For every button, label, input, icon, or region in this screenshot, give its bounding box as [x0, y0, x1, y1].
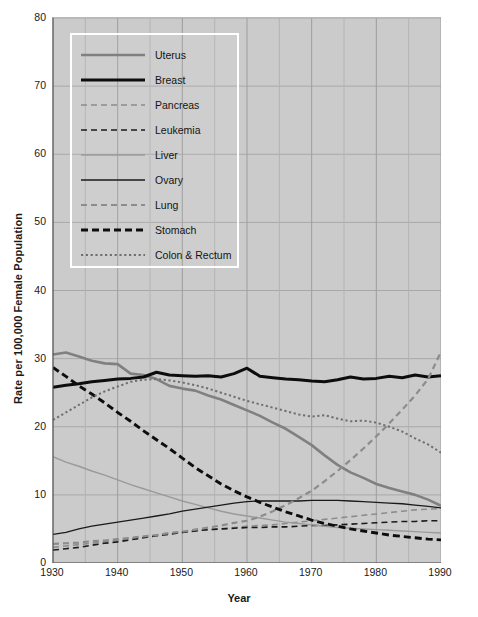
legend-item[interactable]: Liver	[72, 142, 237, 167]
legend-line-sample	[81, 174, 145, 186]
x-tick-label: 1960	[234, 566, 257, 578]
legend-item[interactable]: Leukemia	[72, 117, 237, 142]
x-axis-tick-labels: 1930194019501960197019801990	[0, 566, 478, 586]
y-tick-label: 50	[14, 215, 46, 227]
legend-item[interactable]: Stomach	[72, 217, 237, 242]
y-tick-label: 80	[14, 11, 46, 23]
legend-item-label: Colon & Rectum	[155, 249, 231, 261]
x-tick-label: 1990	[428, 566, 451, 578]
x-tick-label: 1950	[170, 566, 193, 578]
legend-line-sample	[81, 224, 145, 236]
legend-item[interactable]: Ovary	[72, 167, 237, 192]
legend-item[interactable]: Colon & Rectum	[72, 242, 237, 267]
x-axis-label: Year	[0, 592, 478, 604]
legend-item-label: Leukemia	[155, 124, 201, 136]
legend-item-label: Stomach	[155, 224, 196, 236]
x-tick-label: 1940	[105, 566, 128, 578]
x-tick-label: 1930	[40, 566, 63, 578]
legend-item-label: Liver	[155, 149, 178, 161]
legend-item-label: Pancreas	[155, 99, 199, 111]
y-tick-label: 20	[14, 420, 46, 432]
legend-line-sample	[81, 74, 145, 86]
legend-item-label: Breast	[155, 74, 185, 86]
y-tick-label: 30	[14, 352, 46, 364]
legend-item[interactable]: Pancreas	[72, 92, 237, 117]
y-tick-label: 60	[14, 147, 46, 159]
legend-item[interactable]: Uterus	[72, 42, 237, 67]
legend-item[interactable]: Lung	[72, 192, 237, 217]
x-tick-label: 1970	[299, 566, 322, 578]
x-tick-label: 1980	[364, 566, 387, 578]
y-tick-label: 40	[14, 284, 46, 296]
y-axis-tick-labels: 01020304050607080	[14, 0, 46, 617]
y-tick-label: 10	[14, 488, 46, 500]
legend-item-label: Ovary	[155, 174, 183, 186]
chart-root: Rate per 100,000 Female Population 01020…	[0, 0, 478, 617]
legend-line-sample	[81, 49, 145, 61]
legend-line-sample	[81, 99, 145, 111]
legend-item[interactable]: Breast	[72, 67, 237, 92]
legend-item-label: Uterus	[155, 49, 186, 61]
y-tick-label: 70	[14, 79, 46, 91]
legend-line-sample	[81, 149, 145, 161]
legend-item-label: Lung	[155, 199, 178, 211]
chart-legend: UterusBreastPancreasLeukemiaLiverOvaryLu…	[70, 33, 239, 268]
legend-line-sample	[81, 124, 145, 136]
legend-line-sample	[81, 199, 145, 211]
legend-line-sample	[81, 249, 145, 261]
